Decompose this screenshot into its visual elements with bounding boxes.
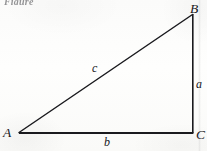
side-label-a: a — [196, 78, 202, 90]
right-triangle-figure: Figure A B C a b c — [0, 0, 207, 151]
side-c-line — [19, 15, 193, 133]
vertex-label-b: B — [190, 2, 198, 16]
side-label-c: c — [92, 62, 97, 74]
vertex-label-c: C — [196, 128, 205, 142]
triangle-drawing — [0, 0, 207, 151]
vertex-label-a: A — [3, 126, 11, 140]
side-label-b: b — [104, 136, 110, 148]
